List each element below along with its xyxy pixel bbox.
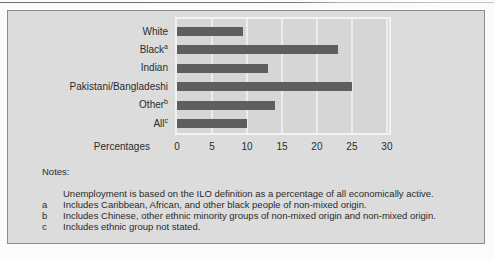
- x-tick-label: 0: [167, 141, 187, 153]
- gridline: [246, 19, 248, 133]
- note-marker: c: [42, 221, 63, 232]
- gridline: [281, 19, 283, 133]
- gridline: [211, 19, 213, 133]
- bar-all: [177, 119, 247, 128]
- category-label: Blacka: [8, 43, 168, 57]
- x-tick-label: 10: [237, 141, 257, 153]
- note-row: Unemployment is based on the ILO definit…: [42, 188, 474, 199]
- note-row: cIncludes ethnic group not stated.: [42, 221, 474, 232]
- page: WhiteBlackaIndianPakistani/BangladeshiOt…: [0, 0, 494, 260]
- footnote-marker: c: [165, 116, 169, 123]
- bar-other: [177, 101, 275, 110]
- x-tick-label: 20: [307, 141, 327, 153]
- category-label: Otherb: [8, 98, 168, 112]
- notes-heading: Notes:: [42, 166, 474, 177]
- x-tick-label: 15: [272, 141, 292, 153]
- top-rule: [0, 2, 494, 3]
- note-row: bIncludes Chinese, other ethnic minority…: [42, 210, 474, 221]
- note-text: Includes Chinese, other ethnic minority …: [63, 210, 474, 221]
- figure-panel: WhiteBlackaIndianPakistani/BangladeshiOt…: [7, 10, 485, 244]
- note-text: Includes Caribbean, African, and other b…: [63, 199, 474, 210]
- category-label: White: [8, 25, 168, 39]
- note-marker: [42, 188, 63, 199]
- note-text: Unemployment is based on the ILO definit…: [63, 188, 474, 199]
- category-label: Indian: [8, 61, 168, 75]
- gridline: [386, 19, 388, 133]
- bar-white: [177, 27, 243, 36]
- note-text: Includes ethnic group not stated.: [63, 221, 474, 232]
- category-label: Allc: [8, 117, 168, 131]
- footnote-marker: b: [164, 98, 168, 105]
- notes-section: Notes: Unemployment is based on the ILO …: [42, 166, 474, 232]
- category-label: Pakistani/Bangladeshi: [8, 80, 168, 94]
- x-tick-label: 25: [342, 141, 362, 153]
- note-row: aIncludes Caribbean, African, and other …: [42, 199, 474, 210]
- x-tick-label: 5: [202, 141, 222, 153]
- bar-pakistani-bangladeshi: [177, 82, 352, 91]
- gridline: [351, 19, 353, 133]
- x-tick-label: 30: [377, 141, 397, 153]
- notes-list: Unemployment is based on the ILO definit…: [42, 188, 474, 232]
- bar-black: [177, 45, 338, 54]
- gridline: [316, 19, 318, 133]
- note-marker: b: [42, 210, 63, 221]
- footnote-marker: a: [164, 43, 168, 50]
- chart-plot-area: [175, 17, 391, 135]
- note-marker: a: [42, 199, 63, 210]
- x-axis-label: Percentages: [8, 141, 150, 153]
- bar-indian: [177, 64, 268, 73]
